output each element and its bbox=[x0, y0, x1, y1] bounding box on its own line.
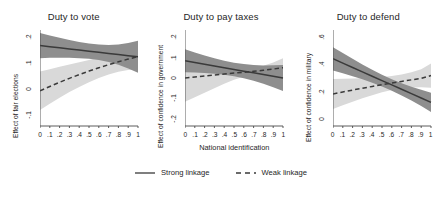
panel-row: Duty to vote Effect of fair elections .2… bbox=[0, 0, 442, 162]
plot-area bbox=[185, 30, 283, 126]
plot-canvas bbox=[40, 30, 140, 128]
panel-title: Duty to defend bbox=[295, 11, 442, 22]
y-tick-label: .2 bbox=[24, 28, 34, 46]
y-axis-label: Effect of confidence in military bbox=[305, 53, 312, 142]
y-tick-label: -.1 bbox=[169, 89, 179, 107]
plot-canvas bbox=[185, 30, 285, 128]
legend-line-dashed-icon bbox=[236, 169, 256, 177]
y-axis-label: Effect of fair elections bbox=[12, 74, 19, 138]
y-tick-label: -.1 bbox=[24, 106, 34, 124]
y-tick-label: -.2 bbox=[169, 110, 179, 128]
x-tick-label: 1 bbox=[424, 131, 438, 138]
y-tick-label: .6 bbox=[317, 28, 327, 46]
y-tick-label: .4 bbox=[317, 55, 327, 73]
x-tick-label: 1 bbox=[276, 131, 290, 138]
legend-item-weak-linkage: Weak linkage bbox=[236, 168, 307, 177]
plot-canvas bbox=[333, 30, 433, 128]
y-tick-label: 0 bbox=[317, 110, 327, 128]
y-tick-label: .1 bbox=[169, 49, 179, 67]
marginal-effects-figure: Duty to vote Effect of fair elections .2… bbox=[0, 0, 442, 200]
panel-duty-to-vote: Duty to vote Effect of fair elections .2… bbox=[0, 0, 147, 162]
y-tick-label: .2 bbox=[169, 28, 179, 46]
plot-area bbox=[333, 30, 431, 126]
panel-duty-to-pay-taxes: Duty to pay taxes Effect of confidence i… bbox=[147, 0, 294, 162]
x-tick-label: 1 bbox=[131, 131, 145, 138]
legend-line-solid-icon bbox=[135, 169, 155, 177]
legend-item-strong-linkage: Strong linkage bbox=[135, 168, 210, 177]
y-tick-label: .2 bbox=[317, 83, 327, 101]
legend-label: Weak linkage bbox=[262, 168, 307, 177]
panel-duty-to-defend: Duty to defend Effect of confidence in m… bbox=[295, 0, 442, 162]
y-tick-label: 0 bbox=[24, 80, 34, 98]
panel-title: Duty to pay taxes bbox=[147, 11, 294, 22]
y-tick-label: 0 bbox=[169, 69, 179, 87]
y-axis-label: Effect of confidence in government bbox=[157, 45, 164, 148]
legend: Strong linkage Weak linkage bbox=[0, 168, 442, 177]
y-tick-label: .1 bbox=[24, 54, 34, 72]
legend-label: Strong linkage bbox=[161, 168, 210, 177]
x-axis-label: National identification bbox=[171, 143, 297, 152]
panel-title: Duty to vote bbox=[0, 11, 147, 22]
plot-area bbox=[40, 30, 138, 126]
